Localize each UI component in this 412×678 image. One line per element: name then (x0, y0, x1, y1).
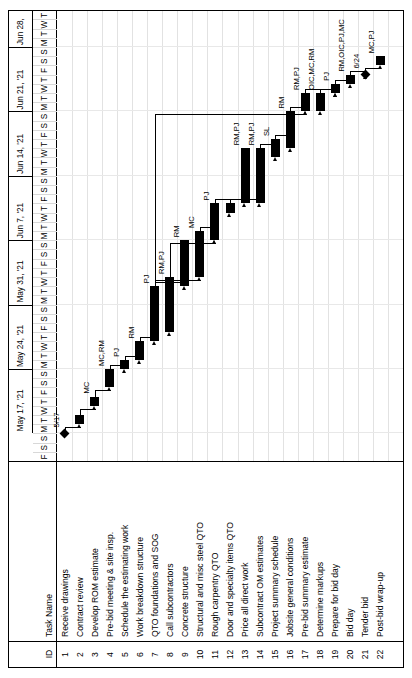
gantt-task-bar[interactable] (135, 341, 144, 359)
table-row-task-name[interactable]: Rough carpentry QTO (208, 462, 222, 641)
dependency-link (110, 366, 111, 369)
table-row-task-name[interactable]: Work breakdown structure (133, 462, 147, 641)
gantt-task-bar[interactable] (210, 203, 219, 240)
gantt-resource-label: PJ (203, 192, 211, 201)
table-row-id: 10 (193, 642, 207, 667)
table-row-task-name[interactable]: QTO foundations and SOG (148, 462, 162, 641)
grid-row-line (388, 11, 389, 461)
gantt-task-bar[interactable] (316, 93, 325, 111)
gantt-resource-label: RM (128, 327, 136, 339)
table-row-task-name[interactable]: Contract review (73, 462, 87, 641)
table-row-task-name[interactable]: Pre-bid summary estimate (298, 462, 312, 641)
gantt-plot-area[interactable]: 5/17MCMC,RMPJRMPJRM,PJRMMCPJRM,PJRM,PJSL… (57, 11, 403, 461)
table-row-task-name[interactable]: Price all direct work (238, 462, 252, 641)
table-row-id: 8 (163, 642, 177, 667)
gantt-task-bar[interactable] (256, 148, 265, 203)
dependency-arrow (122, 369, 126, 373)
grid-row-line (268, 11, 269, 461)
table-row-task-name[interactable]: Jobsite general conditions (283, 462, 297, 641)
table-row-id: 1 (58, 642, 72, 667)
gantt-task-bar[interactable] (226, 203, 235, 212)
table-row-id: 20 (343, 642, 357, 667)
timescale-day-label: M (33, 231, 57, 240)
timescale-day-label: S (33, 111, 57, 120)
timescale-day-label: F (33, 130, 57, 139)
grid-row-line (192, 11, 193, 461)
grid-row-line (147, 11, 148, 461)
gantt-chart: ID 12345678910111213141516171819202122 T… (8, 10, 404, 668)
dependency-link (320, 90, 321, 93)
gantt-resource-label: OIC,MC,RM (308, 49, 316, 90)
timescale-day-label: T (33, 29, 57, 38)
table-row-task-name[interactable]: Develop ROM estimate (88, 462, 102, 641)
gantt-task-bar[interactable] (75, 415, 84, 424)
table-row-task-name[interactable]: Bid day (343, 462, 357, 641)
gantt-task-bar[interactable] (90, 397, 99, 406)
timescale-day-label: T (33, 351, 57, 360)
table-row-task-name[interactable]: Pre-bid meeting & site insp. (103, 462, 117, 641)
gantt-task-bar[interactable] (271, 139, 280, 157)
dependency-arrow (318, 111, 322, 115)
table-row-task-name[interactable]: Structural and misc steel QTO (193, 462, 207, 641)
table-row-task-name[interactable]: Call subcontractors (163, 462, 177, 641)
dependency-link (155, 115, 156, 286)
table-row-id: 2 (73, 642, 87, 667)
table-row-task-name[interactable]: Post-bid wrap-up (373, 462, 387, 641)
table-row-task-name[interactable]: Concrete structure (178, 462, 192, 641)
timescale-day-label: W (33, 341, 57, 350)
gantt-resource-label: RM,OIC,PJ,MC (338, 19, 346, 71)
dependency-link (65, 428, 66, 433)
table-row-id: 3 (88, 642, 102, 667)
grid-week-line (57, 239, 403, 240)
table-row-task-name[interactable]: Project summary schedule (268, 462, 282, 641)
table-row-id: 9 (178, 642, 192, 667)
grid-week-line (57, 304, 403, 305)
gantt-chart-rotated-stage: ID 12345678910111213141516171819202122 T… (0, 0, 412, 678)
gantt-task-bar[interactable] (105, 369, 114, 387)
dependency-arrow (167, 332, 171, 336)
table-row-task-name[interactable]: Determine markups (313, 462, 327, 641)
grid-row-line (343, 11, 344, 461)
table-row-task-name[interactable]: Prepare for bid day (328, 462, 342, 641)
table-row-id: 19 (328, 642, 342, 667)
table-row-task-name[interactable]: Receive drawings (58, 462, 72, 641)
dependency-link (350, 71, 365, 72)
gantt-milestone-label: 6/24 (353, 54, 361, 69)
dependency-arrow (77, 424, 81, 428)
gantt-task-bar[interactable] (150, 286, 159, 341)
dependency-link (155, 114, 305, 115)
dependency-link (230, 200, 231, 203)
timescale-day-label: S (33, 121, 57, 130)
timescale-day-label: S (33, 305, 57, 314)
grid-row-line (358, 11, 359, 461)
task-name-header-label: Task Name (44, 594, 54, 637)
gantt-task-bar[interactable] (286, 111, 295, 148)
table-row-task-name[interactable]: Schedule the estimating work (118, 462, 132, 641)
timescale-day-label: T (33, 75, 57, 84)
timescale-day-label: S (33, 47, 57, 56)
dependency-link (335, 80, 350, 81)
timescale-day-label: S (33, 176, 57, 185)
gantt-task-bar[interactable] (165, 277, 174, 332)
gantt-task-bar[interactable] (301, 93, 310, 111)
gantt-task-bar[interactable] (376, 56, 385, 65)
grid-week-line (57, 432, 403, 433)
table-row-id: 18 (313, 642, 327, 667)
dependency-link (335, 81, 336, 84)
table-row-id: 5 (118, 642, 132, 667)
gantt-task-bar[interactable] (241, 148, 250, 203)
table-row-task-name[interactable]: Tender bid (358, 462, 372, 641)
timescale-day-label: F (33, 452, 57, 461)
gantt-task-bar[interactable] (195, 231, 204, 277)
table-row-task-name[interactable]: Subcontract OM estimates (253, 462, 267, 641)
dependency-arrow (107, 387, 111, 391)
table-row-id: 13 (238, 642, 252, 667)
timescale-week-label: Jun 28, (9, 11, 33, 47)
table-row-task-name[interactable]: Door and specialty items QTO (223, 462, 237, 641)
timescale-day-label: S (33, 249, 57, 258)
timeline-pane[interactable]: May 17, '21May 24, '21May 31, '21Jun 7, … (9, 11, 403, 461)
grid-week-line (57, 175, 403, 176)
timescale-day-label: F (33, 65, 57, 74)
grid-week-line (57, 46, 403, 47)
dependency-arrow (227, 213, 231, 217)
